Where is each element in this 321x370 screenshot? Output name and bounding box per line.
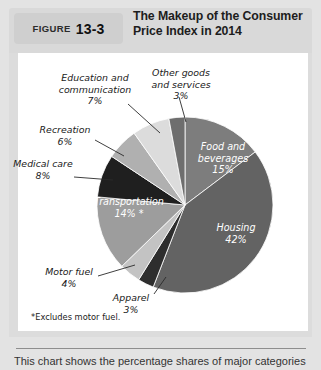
caption-divider	[16, 348, 306, 349]
pie-label-food-and-beverages: Food and beverages 15%	[186, 141, 260, 176]
pie-label-education-and-communication: Education and communication 7%	[58, 72, 132, 107]
pie-label-other-goods-and-services: Other goods and services 3%	[150, 67, 212, 102]
figure-card: FIGURE 13-3 The Makeup of the Consumer P…	[0, 0, 321, 370]
pie-label-housing: Housing 42%	[203, 222, 269, 245]
chart-footnote: *Excludes motor fuel.	[31, 312, 120, 322]
figure-caption: This chart shows the percentage shares o…	[14, 355, 314, 369]
pie-label-motor-fuel: Motor fuel 4%	[36, 266, 102, 289]
pie-label-transportation: Transportation 14% *	[89, 196, 169, 219]
pie-label-medical-care: Medical care 8%	[10, 158, 76, 181]
pie-label-recreation: Recreation 6%	[34, 124, 96, 147]
